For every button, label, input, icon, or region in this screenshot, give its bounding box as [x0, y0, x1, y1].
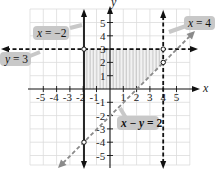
y-tick-label: -4 [96, 136, 106, 148]
x-axis-arrow-icon [192, 86, 200, 92]
callout-x-eq-4: x = 4 [169, 16, 215, 32]
svg-text:x = 4: x = 4 [187, 17, 211, 29]
point-neg2-3 [82, 47, 86, 51]
y-tick-label: 4 [100, 30, 106, 42]
y-tick-label: 5 [100, 17, 106, 29]
callout-x-minus-y-eq-2: x − y = 2 [117, 108, 162, 130]
svg-text:x − y = 2: x − y = 2 [120, 117, 162, 130]
arrow-up-icon [81, 9, 87, 17]
arrow-up-icon [160, 10, 166, 18]
y-axis-label: y [110, 0, 117, 9]
callout-x-eq-neg2: x = −2 [33, 25, 82, 40]
point-4-2 [161, 60, 165, 64]
x-tick-label: -4 [50, 91, 60, 103]
coordinate-graph: x -5 -4 -3 -2 -1 1 2 3 4 5 y 5 4 3 2 1 -… [0, 0, 215, 172]
svg-text:y = 3: y = 3 [4, 53, 28, 66]
x-axis-label: x [202, 81, 209, 95]
arrow-right-icon [190, 46, 198, 52]
x-tick-label: 2 [134, 91, 140, 103]
x-tick-label: 3 [147, 91, 153, 103]
x-tick-label: -3 [63, 91, 73, 103]
x-tick-label: -5 [36, 91, 46, 103]
point-neg2-neg4 [82, 140, 86, 144]
y-tick-label: -2 [96, 110, 105, 122]
x-tick-label: 5 [174, 91, 180, 103]
arrow-left-icon [1, 46, 9, 52]
y-tick-label: 2 [100, 56, 106, 68]
point-4-3 [161, 47, 165, 51]
y-tick-label: -5 [96, 150, 106, 162]
solution-region [84, 49, 163, 89]
callout-y-eq-3: y = 3 [0, 52, 40, 66]
svg-text:x = −2: x = −2 [36, 27, 67, 39]
y-tick-label: 1 [100, 70, 106, 82]
y-tick-label: -1 [96, 96, 105, 108]
